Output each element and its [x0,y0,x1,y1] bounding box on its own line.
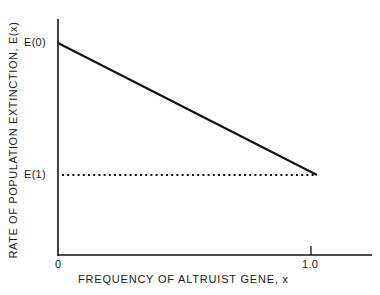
y-axis-title: RATE OF POPULATION EXTINCTION, E(x) [7,15,19,265]
chart-plot [0,0,380,295]
extinction-rate-line [58,43,317,175]
x-tick-label-1: 1.0 [302,258,318,270]
x-tick-label-0: 0 [55,258,61,270]
y-tick-label-e0: E(0) [24,36,46,48]
x-axis-title: FREQUENCY OF ALTRUIST GENE, x [78,273,289,285]
y-tick-label-e1: E(1) [24,168,46,180]
